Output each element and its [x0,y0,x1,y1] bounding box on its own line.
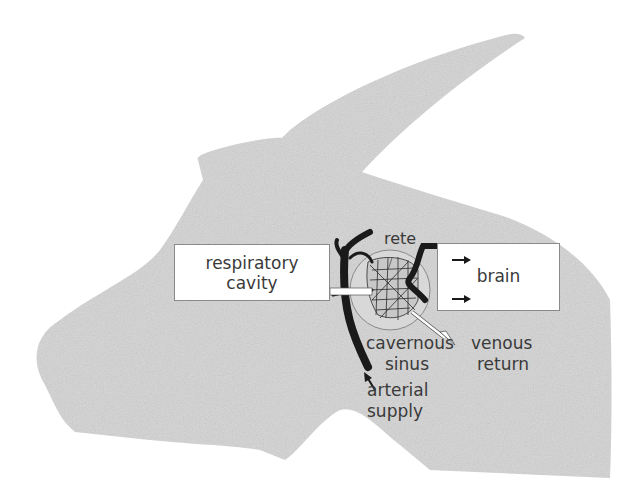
brain-inflow-arrows-icon [450,252,474,308]
brain-box: brain [437,243,560,311]
respiratory-cavity-label-line2: cavity [175,273,329,293]
respiratory-cavity-label-line1: respiratory [175,253,329,273]
arterial-supply-label-line2: supply [367,401,423,421]
diagram-canvas: respiratory cavity brain rete cavernous … [0,0,628,503]
cavernous-sinus-label-line2: sinus [385,354,429,374]
cavernous-sinus-label-line1: cavernous [366,333,454,353]
venous-return-label-line1: venous [471,333,532,353]
arterial-supply-label-line1: arterial [367,380,428,400]
venous-return-label-line2: return [477,354,529,374]
respiratory-cavity-box: respiratory cavity [174,244,330,301]
rete-label: rete [384,229,416,249]
